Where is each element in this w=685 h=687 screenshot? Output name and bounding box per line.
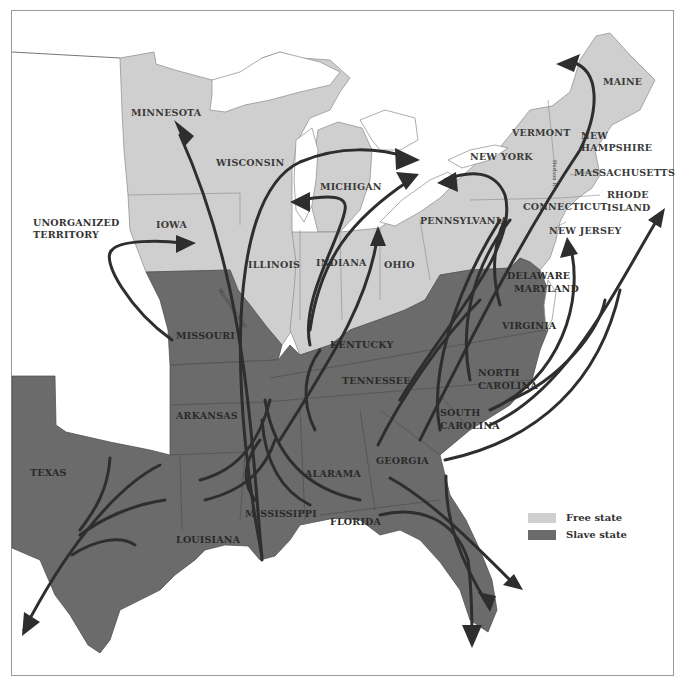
map-canvas: MINNESOTA WISCONSIN IOWA UNORGANIZED TER… — [0, 0, 685, 687]
label-arkansas: ARKANSAS — [175, 410, 238, 421]
label-wisconsin: WISCONSIN — [215, 157, 284, 168]
arrowhead-lake-ontario-icon — [395, 148, 420, 170]
label-new-york: NEW YORK — [470, 151, 533, 162]
label-unorganized-territory-1: UNORGANIZED — [33, 217, 119, 228]
label-georgia: GEORGIA — [376, 455, 429, 466]
label-vermont: VERMONT — [511, 127, 570, 138]
label-connecticut: CONNECTICUT — [523, 201, 608, 212]
label-maryland: MARYLAND — [514, 283, 579, 294]
label-alabama: ALARAMA — [304, 468, 361, 479]
arrowhead-rhode-island-icon — [648, 208, 665, 228]
label-north-carolina-1: NORTH — [478, 367, 520, 378]
label-tennessee: TENNESSEE — [342, 375, 411, 386]
legend-label-free-state: Free state — [566, 512, 622, 523]
label-rhode-island-1: RHODE — [607, 189, 649, 200]
label-new-hampshire-2: HAMPSHIRE — [581, 142, 652, 153]
label-rhode-island-2: ISLAND — [607, 202, 650, 213]
arrowhead-maine-icon — [556, 54, 580, 72]
slave-state-swatch — [528, 530, 556, 540]
label-texas: TEXAS — [30, 467, 67, 478]
label-louisiana: LOUISIANA — [176, 534, 241, 545]
label-michigan: MICHIGAN — [320, 181, 382, 192]
label-florida: FLORIDA — [330, 516, 381, 527]
label-unorganized-territory-2: TERRITORY — [33, 229, 99, 240]
legend-label-slave-state: Slave state — [566, 529, 627, 540]
label-delaware: DELAWARE — [507, 270, 570, 281]
label-minnesota: MINNESOTA — [131, 107, 202, 118]
legend-item-slave-state: Slave state — [528, 526, 627, 543]
arrowhead-new-jersey-icon — [560, 237, 578, 258]
arrowhead-florida-tip-icon — [462, 625, 482, 648]
label-maine: MAINE — [603, 76, 642, 87]
label-illinois: ILLINOIS — [248, 259, 300, 270]
label-missouri: MISSOURI — [176, 330, 235, 341]
legend-item-free-state: Free state — [528, 509, 627, 526]
label-massachusetts: MASSACHUSETTS — [574, 167, 675, 178]
label-south-carolina-1: SOUTH — [440, 407, 480, 418]
label-iowa: IOWA — [156, 219, 187, 230]
northern-border-line — [12, 52, 120, 58]
free-state-swatch — [528, 513, 556, 523]
legend: Free state Slave state — [528, 509, 627, 543]
label-ohio: OHIO — [384, 259, 415, 270]
label-virginia: VIRGINIA — [501, 320, 557, 331]
label-pennsylvania: PENNSYLVANIA — [420, 215, 508, 226]
label-new-jersey: NEW JERSEY — [549, 225, 621, 236]
